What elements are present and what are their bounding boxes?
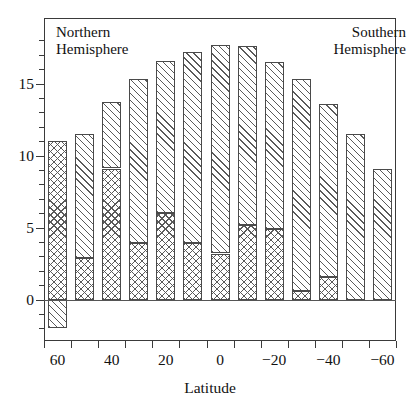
bar-segment-lower xyxy=(238,225,257,300)
bar-segment-upper xyxy=(319,104,338,277)
bar-column xyxy=(265,18,284,341)
bar-column-negative xyxy=(48,18,67,341)
bar-column xyxy=(373,18,392,341)
x-axis-minor-tick xyxy=(261,341,262,348)
bar-series-group xyxy=(44,18,396,341)
y-axis-tick-label: 10 xyxy=(0,148,34,164)
x-axis-tick-label: 20 xyxy=(143,352,189,368)
x-axis-minor-tick xyxy=(396,341,397,348)
bar-segment-lower xyxy=(265,229,284,300)
x-axis-minor-tick xyxy=(98,341,99,348)
x-axis-minor-tick xyxy=(342,341,343,348)
y-axis-tick-label: 15 xyxy=(0,76,34,92)
y-axis-tick-label: 5 xyxy=(0,220,34,236)
x-axis-tick-label: 60 xyxy=(35,352,81,368)
bar-segment-upper xyxy=(238,46,257,225)
y-axis-tick-label: 0 xyxy=(0,292,34,308)
bar-segment-lower xyxy=(292,291,311,300)
bar-column xyxy=(319,18,338,341)
bar-column xyxy=(292,18,311,341)
bar-column xyxy=(211,18,230,341)
bar-segment-upper xyxy=(102,102,121,168)
x-axis-minor-tick xyxy=(234,341,235,348)
bar-column xyxy=(238,18,257,341)
bar-column xyxy=(183,18,202,341)
x-axis-minor-tick xyxy=(207,341,208,348)
bar-segment-upper xyxy=(211,45,230,254)
x-axis-minor-tick xyxy=(288,341,289,348)
x-axis-tick-label: 0 xyxy=(197,352,243,368)
y-axis-major-tick xyxy=(36,156,44,157)
bar-segment-upper xyxy=(265,62,284,229)
bar-column xyxy=(102,18,121,341)
bar-segment-upper xyxy=(156,61,175,214)
zero-baseline xyxy=(44,300,396,301)
x-axis-minor-tick xyxy=(152,341,153,348)
x-axis-minor-tick xyxy=(179,341,180,348)
bar-segment-upper xyxy=(346,134,365,300)
bar-column xyxy=(75,18,94,341)
x-axis-tick-label: −60 xyxy=(360,352,406,368)
bar-column xyxy=(129,18,148,341)
bar-column xyxy=(346,18,365,341)
x-axis-minor-tick xyxy=(71,341,72,348)
bar-segment-upper xyxy=(373,169,392,300)
y-axis-major-tick xyxy=(36,300,44,301)
bar-segment-upper xyxy=(75,134,94,258)
bar-segment-lower xyxy=(183,243,202,299)
x-axis-tick-label: −20 xyxy=(251,352,297,368)
bar-segment-upper xyxy=(292,79,311,291)
x-axis-tick-label: −40 xyxy=(305,352,351,368)
x-axis-title: Latitude xyxy=(0,379,420,397)
x-axis-tick-label: 40 xyxy=(89,352,135,368)
y-axis-major-tick xyxy=(36,228,44,229)
bar-segment-upper xyxy=(129,79,148,243)
y-axis-major-tick xyxy=(36,84,44,85)
x-axis-minor-tick xyxy=(315,341,316,348)
x-axis-minor-tick xyxy=(44,341,45,348)
x-axis-minor-tick xyxy=(369,341,370,348)
bar-segment-lower xyxy=(129,243,148,299)
bar-segment-upper xyxy=(183,52,202,244)
bar-column xyxy=(156,18,175,341)
bar-segment-lower xyxy=(102,169,121,300)
bar-segment-lower xyxy=(211,254,230,300)
x-axis-minor-tick xyxy=(125,341,126,348)
bar-segment-lower xyxy=(156,213,175,299)
bar-segment-lower xyxy=(319,277,338,300)
bar-segment-negative xyxy=(48,300,67,329)
chart-figure: Northern Hemisphere Southern Hemisphere … xyxy=(0,0,420,413)
bar-segment-lower xyxy=(75,258,94,300)
